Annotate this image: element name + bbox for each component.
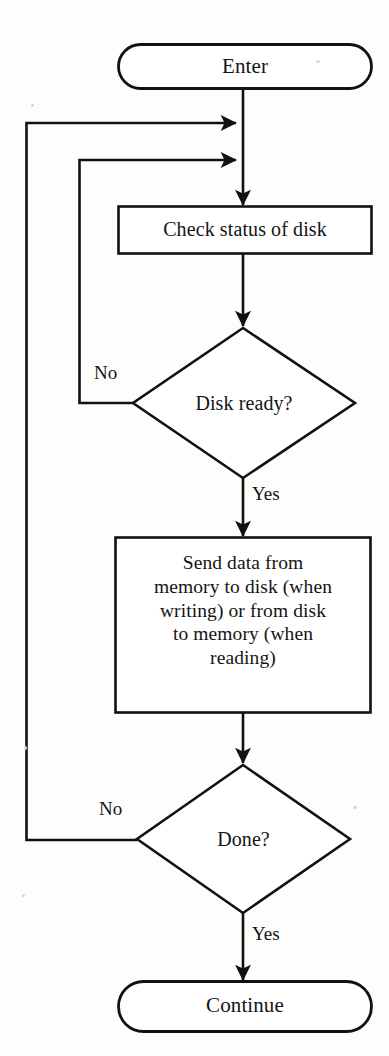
edge-label-disk-ready-no: No [94,362,117,384]
edge-label-disk-ready-yes: Yes [252,483,280,505]
scan-speck [31,104,34,107]
scan-speck [353,806,357,809]
scan-speck [24,746,27,750]
node-check-shape [119,207,372,254]
scan-speck [22,894,25,897]
node-send-data-shape [116,538,371,713]
node-disk-ready-shape [133,328,355,478]
scan-speck [316,60,320,63]
edge-label-done-yes: Yes [252,923,280,945]
node-enter-shape [119,45,372,89]
flowchart-canvas: Enter Check status of disk Disk ready? S… [0,0,389,1056]
node-continue-shape [119,982,372,1032]
flowchart-graphics [0,0,389,1056]
edge-label-done-no: No [99,798,122,820]
node-done-shape [137,765,350,913]
